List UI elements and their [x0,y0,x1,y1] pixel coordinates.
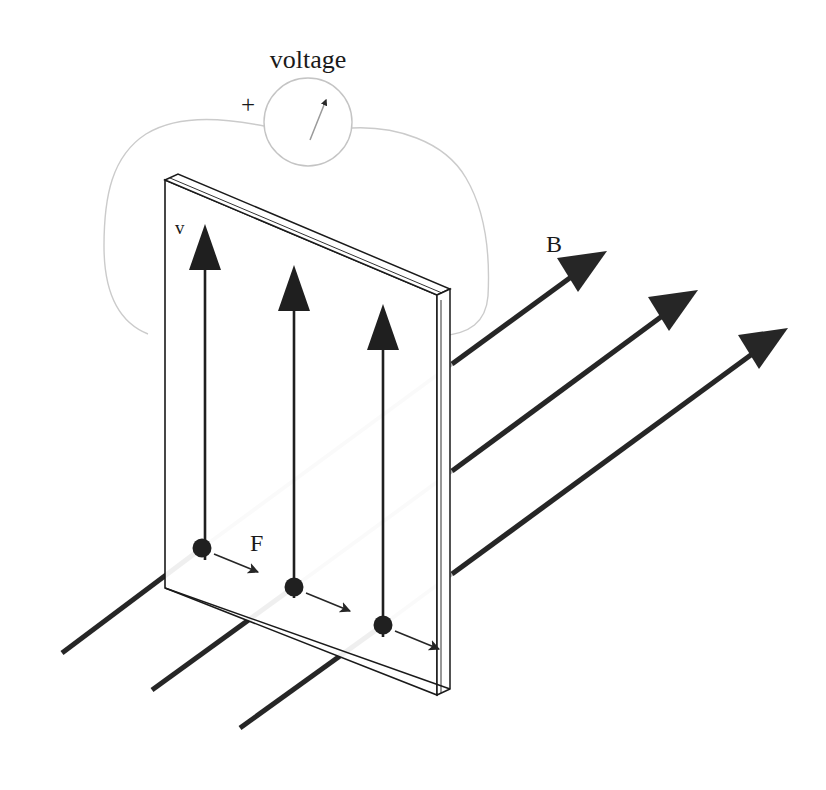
diagram-canvas: voltage + [0,0,826,790]
force-label: F [250,530,263,556]
magnetic-field-label: B [546,231,562,257]
magnetic-field-arrows [452,251,788,574]
velocity-label: v [175,217,185,238]
charge-dot [285,578,304,597]
voltage-label: voltage [270,45,347,74]
field-arrow [452,251,607,364]
field-arrow [452,328,788,574]
plate-right-face [437,289,450,695]
charge-dot [193,539,212,558]
plus-terminal-label: + [241,91,255,118]
voltmeter-dial[interactable] [264,78,352,166]
field-arrow [452,290,698,471]
voltmeter[interactable] [264,78,352,166]
charge-dot [374,616,393,635]
hall-effect-figure: voltage + [0,0,826,790]
